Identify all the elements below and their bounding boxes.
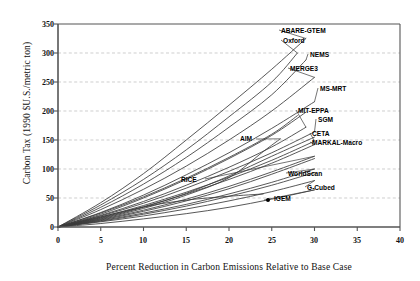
series-label-worldscan: WorldScan: [288, 170, 322, 177]
series-label-g-cubed: G-Cubed: [307, 184, 335, 191]
igem-marker-dot: [266, 198, 270, 202]
series-label-aim: AIM: [240, 135, 252, 142]
series-label-ceta: CETA: [312, 130, 329, 137]
series-label-rice: RICE: [181, 176, 197, 183]
series-label-oxford: Oxford: [283, 37, 305, 44]
series-label-ms-mrt: MS-MRT: [320, 85, 346, 92]
series-label-mit-eppa: MIT-EPPA: [298, 107, 329, 114]
series-label-igem: IGEM: [274, 195, 291, 202]
series-label-nems: NEMS: [310, 51, 329, 58]
series-label-merge3: MERGE3: [290, 65, 318, 72]
series-label-sgm: SGM: [318, 116, 333, 123]
series-label-abare-gtem: ABARE-GTEM: [281, 27, 326, 34]
chart-figure: Carbon Tax (1990 $U.S./metric ton) 350 3…: [0, 0, 420, 281]
series-label-markal-macro: MARKAL-Macro: [312, 139, 362, 146]
